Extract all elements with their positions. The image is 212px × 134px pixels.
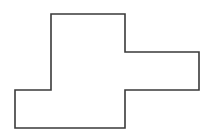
rectilinear-polygon-figure — [0, 0, 212, 134]
diagram-canvas — [0, 0, 212, 134]
polygon-outline — [15, 14, 199, 128]
